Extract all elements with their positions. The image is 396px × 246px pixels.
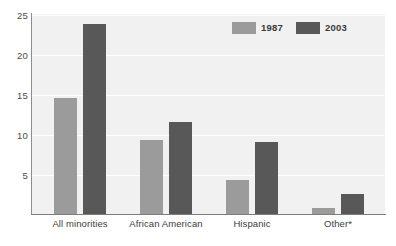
x-axis-labels: All minorities African American Hispanic… — [32, 218, 385, 238]
bar-1987-other — [312, 208, 335, 214]
bar-2003-hispanic — [255, 142, 278, 214]
legend-label: 1987 — [261, 23, 283, 33]
bar-1987-all-minorities — [54, 98, 77, 214]
y-axis-tick-label: 25 — [4, 11, 28, 21]
legend-entry-1987: 1987 — [232, 22, 283, 34]
y-axis-tick-label: 15 — [4, 91, 28, 101]
x-axis-line — [31, 214, 386, 215]
bar-2003-other — [341, 194, 364, 214]
x-axis-tick-label-african-american: African American — [118, 218, 214, 229]
chart-legend: 1987 2003 — [232, 22, 347, 34]
bar-2003-all-minorities — [83, 24, 106, 214]
bar-1987-african-american — [140, 140, 163, 214]
plot-area — [32, 14, 385, 214]
y-axis-tick-label: 20 — [4, 51, 28, 61]
gridline — [32, 15, 385, 16]
x-axis-tick-label-other: Other* — [290, 218, 386, 229]
bar-chart: 25 20 15 10 5 1987 2003 — [0, 0, 396, 246]
bar-2003-african-american — [169, 122, 192, 214]
y-axis-tick-label: 5 — [4, 171, 28, 181]
legend-swatch-icon — [296, 22, 320, 34]
legend-entry-2003: 2003 — [296, 22, 347, 34]
y-axis-labels: 25 20 15 10 5 — [0, 0, 28, 246]
x-axis-tick-label-hispanic: Hispanic — [204, 218, 300, 229]
legend-swatch-icon — [232, 22, 256, 34]
y-axis-tick-label: 10 — [4, 131, 28, 141]
x-axis-tick-label-all-minorities: All minorities — [32, 218, 128, 229]
legend-label: 2003 — [325, 23, 347, 33]
bar-1987-hispanic — [226, 180, 249, 214]
